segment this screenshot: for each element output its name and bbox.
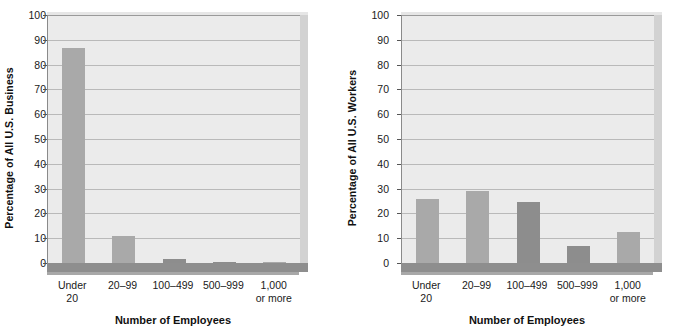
x-axis-ticks-a: Under 2020–99100–499500–9991,000 or more <box>47 279 299 304</box>
y-tick-label: 90 <box>359 35 389 45</box>
plot-area-b <box>401 15 662 278</box>
bar-face <box>466 191 489 263</box>
gridline <box>402 15 654 16</box>
gridline <box>48 15 300 16</box>
gridline <box>48 238 300 239</box>
y-tick-label: 60 <box>16 109 46 119</box>
x-tick-label: Under 20 <box>47 279 97 304</box>
x-tick-label: 20–99 <box>451 279 501 304</box>
y-tick-label: 100 <box>359 10 389 20</box>
y-tick-label: 80 <box>16 60 46 70</box>
y-tick-label: 10 <box>16 233 46 243</box>
gridline <box>402 139 654 140</box>
y-tick-label: 90 <box>16 35 46 45</box>
x-tick-label: 100–499 <box>502 279 552 304</box>
y-tick-label: 0 <box>16 258 46 268</box>
bar <box>416 199 439 263</box>
gridline <box>48 114 300 115</box>
bar-face <box>517 202 540 263</box>
plot-floor-front <box>401 272 653 275</box>
gridline <box>48 164 300 165</box>
plot-depth-right <box>653 15 662 263</box>
x-axis-ticks-b: Under 2020–99100–499500–9991,000 or more <box>401 279 653 304</box>
bar <box>62 48 85 263</box>
y-tick-label: 30 <box>359 184 389 194</box>
gridline <box>402 89 654 90</box>
bar-face <box>62 48 85 263</box>
y-tick-label: 50 <box>359 134 389 144</box>
y-tick-label: 60 <box>359 109 389 119</box>
gridline <box>48 139 300 140</box>
x-axis-title-b: Number of Employees <box>401 314 653 326</box>
x-tick-label: 20–99 <box>97 279 147 304</box>
y-tick-label: 40 <box>359 159 389 169</box>
gridline <box>48 65 300 66</box>
plot-floor-front <box>47 272 299 275</box>
gridline <box>402 189 654 190</box>
y-tick-label: 80 <box>359 60 389 70</box>
x-tick-label: 500–999 <box>198 279 248 304</box>
y-tick-label: 10 <box>359 233 389 243</box>
x-tick-label: 1,000 or more <box>603 279 653 304</box>
y-tick-label: 20 <box>359 208 389 218</box>
bar <box>567 246 590 263</box>
chart-panel-b: Percentage of All U.S. Workers 100908070… <box>343 0 686 326</box>
bar-face <box>416 199 439 263</box>
figure-bar-charts: Percentage of All U.S. Business 10090807… <box>0 0 686 326</box>
y-tick-label: 70 <box>16 84 46 94</box>
bar-face <box>112 236 135 263</box>
plot-face-b <box>401 15 654 263</box>
y-tick-label: 20 <box>16 208 46 218</box>
bar <box>112 236 135 263</box>
plot-floor <box>47 263 308 272</box>
gridline <box>402 40 654 41</box>
chart-panel-a: Percentage of All U.S. Business 10090807… <box>0 0 343 326</box>
gridline <box>48 189 300 190</box>
gridline <box>402 65 654 66</box>
plot-floor <box>401 263 662 272</box>
bar <box>517 202 540 263</box>
y-axis-ticks-a: 1009080706050403020100 <box>16 0 46 326</box>
gridline <box>48 213 300 214</box>
bar-face <box>617 232 640 263</box>
x-axis-title-a: Number of Employees <box>47 314 299 326</box>
y-axis-ticks-b: 1009080706050403020100 <box>359 0 389 326</box>
y-tick-label: 0 <box>359 258 389 268</box>
plot-area-a <box>47 15 308 278</box>
gridline <box>48 40 300 41</box>
y-tick-label: 100 <box>16 10 46 20</box>
y-tick-label: 30 <box>16 184 46 194</box>
x-tick-label: 100–499 <box>148 279 198 304</box>
plot-face-a <box>47 15 300 263</box>
plot-depth-right <box>299 15 308 263</box>
x-tick-label: 500–999 <box>552 279 602 304</box>
x-tick-label: 1,000 or more <box>249 279 299 304</box>
bar <box>466 191 489 263</box>
y-tick-label: 50 <box>16 134 46 144</box>
x-tick-label: Under 20 <box>401 279 451 304</box>
bar-face <box>567 246 590 263</box>
bar <box>617 232 640 263</box>
y-tick-label: 40 <box>16 159 46 169</box>
gridline <box>48 89 300 90</box>
gridline <box>402 114 654 115</box>
gridline <box>402 164 654 165</box>
y-tick-label: 70 <box>359 84 389 94</box>
